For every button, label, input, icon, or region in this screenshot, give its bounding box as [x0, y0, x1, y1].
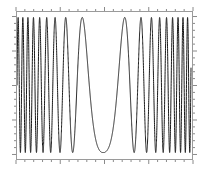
waveform-trace [17, 12, 192, 159]
plot-frame [16, 11, 193, 160]
chirp-waveform-figure [0, 0, 205, 177]
